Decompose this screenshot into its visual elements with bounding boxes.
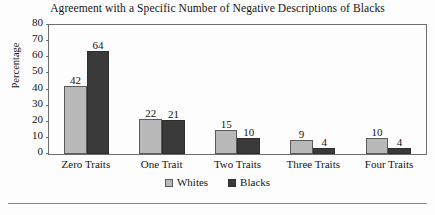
x-axis-label: One Trait (124, 157, 200, 171)
bar-value-label: 22 (145, 107, 156, 119)
bar-value-label: 42 (70, 74, 81, 86)
bar-blacks[interactable]: 21 (162, 120, 185, 154)
x-axis-category-labels: Zero TraitsOne TraitTwo TraitsThree Trai… (48, 157, 427, 173)
bar-whites[interactable]: 42 (64, 86, 87, 154)
bar-blacks[interactable]: 10 (237, 138, 260, 154)
y-tick-label: 60 (32, 49, 43, 60)
bar-value-label: 15 (221, 118, 232, 130)
x-axis-label: Three Traits (275, 157, 351, 171)
legend-swatch-icon (165, 179, 173, 187)
y-tick-label: 80 (32, 17, 43, 28)
y-tick-label: 20 (32, 114, 43, 125)
y-tick-label: 0 (38, 146, 44, 157)
bar-whites[interactable]: 9 (290, 140, 313, 155)
bar-value-label: 9 (299, 128, 305, 140)
bar-group: 104 (366, 25, 411, 154)
bar-whites[interactable]: 22 (139, 119, 162, 154)
legend-item-whites[interactable]: Whites (165, 177, 208, 188)
bar-value-label: 64 (92, 39, 103, 51)
y-tick-label: 10 (32, 130, 43, 141)
legend-label: Whites (177, 177, 208, 188)
x-axis-label: Zero Traits (48, 157, 124, 171)
bar-whites[interactable]: 10 (366, 138, 389, 154)
x-axis-label: Two Traits (200, 157, 276, 171)
y-tick-label: 70 (32, 33, 43, 44)
bar-value-label: 4 (397, 136, 403, 148)
bar-group: 2221 (139, 25, 184, 154)
y-tick-label: 30 (32, 98, 43, 109)
bar-group: 1510 (215, 25, 260, 154)
y-tick-label: 50 (32, 65, 43, 76)
bar-blacks[interactable]: 64 (87, 51, 110, 154)
bar-whites[interactable]: 15 (215, 130, 238, 154)
y-tick-label: 40 (32, 82, 43, 93)
bar-value-label: 21 (168, 108, 179, 120)
bar-value-label: 10 (371, 126, 382, 138)
legend-label: Blacks (240, 177, 270, 188)
bottom-divider (8, 203, 427, 204)
y-axis-label: Percentage (10, 21, 21, 111)
bar-value-label: 10 (243, 126, 254, 138)
chart-title: Agreement with a Specific Number of Nega… (0, 2, 435, 14)
bars-layer: 42642221151094104 (49, 25, 426, 154)
x-axis-label: Four Traits (351, 157, 427, 171)
plot-area: 01020304050607080 42642221151094104 (48, 24, 427, 155)
legend-item-blacks[interactable]: Blacks (228, 177, 270, 188)
bar-blacks[interactable]: 4 (313, 148, 336, 154)
chart-legend: WhitesBlacks (0, 177, 435, 188)
bar-blacks[interactable]: 4 (388, 148, 411, 154)
legend-swatch-icon (228, 179, 236, 187)
bar-group: 4264 (64, 25, 109, 154)
bar-value-label: 4 (321, 136, 327, 148)
bar-group: 94 (290, 25, 335, 154)
bar-chart-figure: Agreement with a Specific Number of Nega… (0, 0, 435, 215)
